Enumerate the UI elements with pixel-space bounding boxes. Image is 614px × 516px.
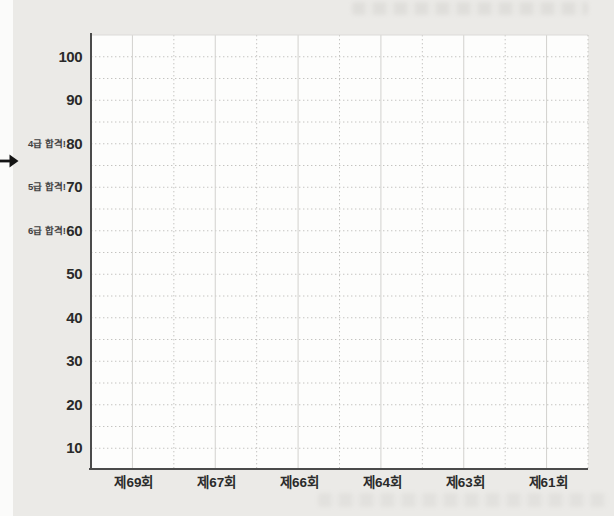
y-tick-label: 20 <box>30 397 82 413</box>
x-axis-label: 제66회 <box>280 475 319 491</box>
x-axis-label: 제63회 <box>446 475 485 491</box>
pass-level-label: 6급 합격! <box>4 225 66 237</box>
x-axis-label: 제67회 <box>197 475 236 491</box>
scanned-chart-page: 100908070605040302010 4급 합격!5급 합격!6급 합격!… <box>0 0 614 516</box>
x-axis-label: 제61회 <box>529 475 568 491</box>
score-grid-chart <box>0 0 614 516</box>
y-tick-label: 40 <box>30 310 82 326</box>
x-axis-label: 제69회 <box>114 475 153 491</box>
y-tick-label: 90 <box>30 92 82 108</box>
y-tick-label: 10 <box>30 440 82 456</box>
pass-level-label: 5급 합격! <box>4 181 66 193</box>
x-axis-label: 제64회 <box>363 475 402 491</box>
y-tick-label: 100 <box>30 49 82 65</box>
y-tick-label: 30 <box>30 353 82 369</box>
pass-level-label: 4급 합격! <box>4 138 66 150</box>
right-arrow-icon <box>0 153 20 169</box>
y-tick-label: 50 <box>30 266 82 282</box>
